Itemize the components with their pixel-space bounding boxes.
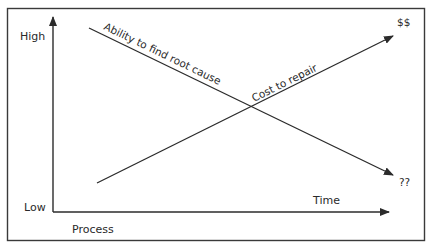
y-axis-low-label: Low [24,201,46,214]
ability-end-marker: ?? [399,176,410,188]
y-axis-high-label: High [20,30,45,43]
x-axis-start-label: Process [72,223,114,236]
cost-vs-root-cause-diagram: High Low Process Time Ability to find ro… [0,0,432,249]
x-axis-end-label: Time [312,194,340,207]
cost-end-marker: $$ [397,16,410,28]
